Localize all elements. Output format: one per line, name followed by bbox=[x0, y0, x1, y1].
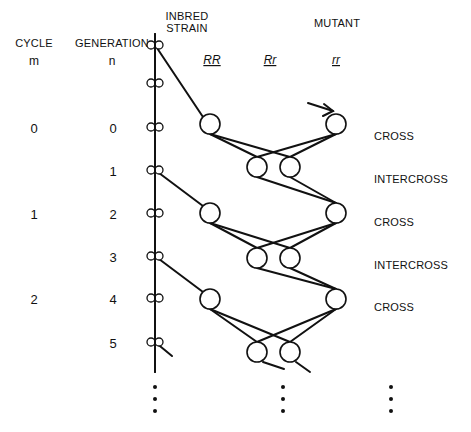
cycle-value: 2 bbox=[30, 292, 37, 307]
inbred-mating-pairs bbox=[147, 34, 163, 372]
connector-line bbox=[155, 170, 203, 206]
rr-individual bbox=[326, 289, 346, 309]
Rr-individual bbox=[280, 342, 300, 362]
ellipsis-dot bbox=[153, 385, 157, 389]
continuation-ellipsis bbox=[153, 385, 393, 413]
RR-individual bbox=[200, 114, 220, 134]
mutant-header: MUTANT bbox=[314, 17, 360, 29]
cycle-column: 012 bbox=[30, 121, 37, 307]
mating-step-label: CROSS bbox=[374, 216, 414, 228]
generation-value: 0 bbox=[109, 121, 116, 136]
mutant-entry-arrow-icon bbox=[308, 103, 333, 116]
cycle-value: 0 bbox=[30, 121, 37, 136]
Rr-individual bbox=[280, 248, 300, 268]
generation-value: 2 bbox=[109, 207, 116, 222]
mating-step-label: CROSS bbox=[374, 130, 414, 142]
Rr-individual bbox=[247, 248, 267, 268]
ellipsis-dot bbox=[389, 409, 393, 413]
mating-step-label: INTERCROSS bbox=[374, 173, 448, 185]
generation-column: 012345 bbox=[109, 121, 116, 351]
rr-individual bbox=[326, 203, 346, 223]
connector-line bbox=[296, 362, 310, 372]
RR-individual bbox=[200, 289, 220, 309]
inbred-strain-header-line1: INBRED bbox=[166, 10, 209, 22]
generation-value: 3 bbox=[109, 250, 116, 265]
rr-individual bbox=[326, 114, 346, 134]
genotype-RR-label: RR bbox=[203, 53, 221, 67]
cycle-header: CYCLE bbox=[15, 37, 53, 49]
ellipsis-dot bbox=[153, 397, 157, 401]
cycle-variable: m bbox=[29, 54, 39, 68]
generation-value: 5 bbox=[109, 336, 116, 351]
Rr-individual bbox=[247, 342, 267, 362]
Rr-individual bbox=[280, 157, 300, 177]
generation-header: GENERATION bbox=[75, 37, 149, 49]
ellipsis-dot bbox=[281, 397, 285, 401]
ellipsis-dot bbox=[281, 409, 285, 413]
connector-line bbox=[155, 256, 203, 292]
pedigree-connectors bbox=[155, 45, 336, 372]
RR-individual bbox=[200, 203, 220, 223]
generation-variable: n bbox=[109, 54, 116, 68]
generation-value: 4 bbox=[109, 292, 116, 307]
genotype-Rr-label: Rr bbox=[264, 53, 278, 67]
ellipsis-dot bbox=[153, 409, 157, 413]
ellipsis-dot bbox=[389, 397, 393, 401]
connector-line bbox=[263, 362, 284, 369]
mating-step-label: INTERCROSS bbox=[374, 259, 448, 271]
generation-value: 1 bbox=[109, 164, 116, 179]
ellipsis-dot bbox=[281, 385, 285, 389]
inbred-strain-header-line2: STRAIN bbox=[166, 22, 208, 34]
cycle-value: 1 bbox=[30, 207, 37, 222]
cross-intercross-breeding-diagram: CYCLE m GENERATION n INBRED STRAIN MUTAN… bbox=[0, 0, 471, 432]
mating-step-column: CROSSINTERCROSSCROSSINTERCROSSCROSS bbox=[374, 130, 448, 313]
genotype-rr-label: rr bbox=[332, 53, 341, 67]
ellipsis-dot bbox=[389, 385, 393, 389]
Rr-individual bbox=[247, 157, 267, 177]
mating-step-label: CROSS bbox=[374, 301, 414, 313]
